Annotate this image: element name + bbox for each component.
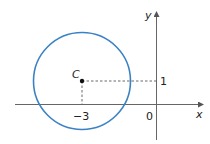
y-tick-label: 1 bbox=[160, 75, 167, 88]
coordinate-diagram: C −3 1 0 x y bbox=[0, 0, 210, 144]
origin-label: 0 bbox=[146, 110, 153, 123]
x-tick-label: −3 bbox=[73, 110, 89, 123]
y-axis-label: y bbox=[144, 9, 152, 22]
x-axis-label: x bbox=[195, 108, 203, 121]
center-label: C bbox=[72, 68, 80, 81]
center-point bbox=[80, 79, 84, 83]
